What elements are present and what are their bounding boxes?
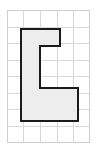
figure-container: [0, 0, 97, 151]
canvas-background: [0, 0, 97, 151]
grid-figure-svg: [0, 0, 97, 151]
